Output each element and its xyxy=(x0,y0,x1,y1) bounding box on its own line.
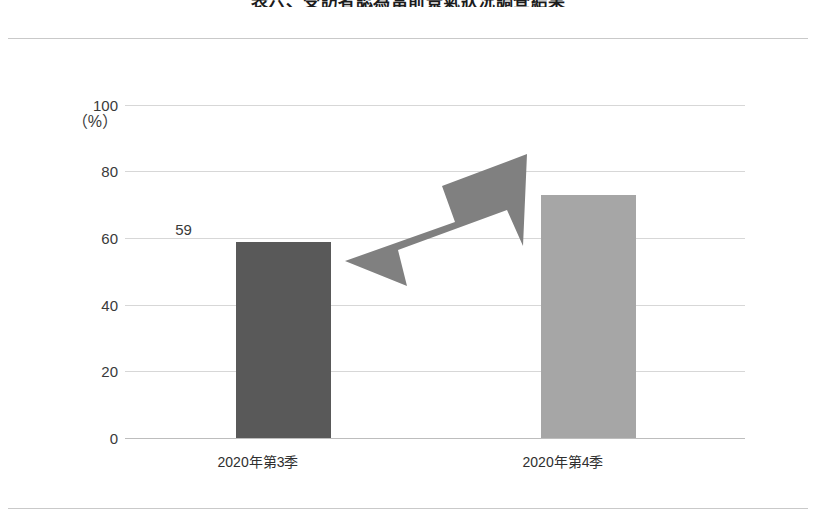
y-tick-60: 60 xyxy=(62,231,118,246)
bar-2020-q4 xyxy=(541,195,636,438)
axis-baseline xyxy=(125,438,745,439)
bar-value-2020-q3: 59 xyxy=(111,222,256,237)
gridline-60 xyxy=(125,238,745,239)
footer-divider xyxy=(8,508,808,509)
y-tick-100: 100 xyxy=(62,98,118,113)
y-axis-unit-label: （%） xyxy=(72,113,118,130)
y-tick-0: 0 xyxy=(62,431,118,446)
x-tick-2020-q4: 2020年第4季 xyxy=(468,455,658,469)
bar-value-2020-q4: 73 xyxy=(416,175,561,190)
gridline-20 xyxy=(125,371,745,372)
page-title: 表六、受訪者認為當前景氣狀況調查結果 xyxy=(0,0,816,7)
y-tick-80: 80 xyxy=(62,164,118,179)
bar-chart: （%） 100 80 60 40 20 0 59 73 2020年第3季 202… xyxy=(0,38,816,508)
x-tick-2020-q3: 2020年第3季 xyxy=(163,455,353,469)
gridline-80 xyxy=(125,171,745,172)
y-tick-20: 20 xyxy=(62,364,118,379)
gridline-40 xyxy=(125,305,745,306)
y-tick-40: 40 xyxy=(62,298,118,313)
bar-2020-q3 xyxy=(236,242,331,438)
plot-area xyxy=(125,105,745,438)
gridline-100 xyxy=(125,105,745,106)
